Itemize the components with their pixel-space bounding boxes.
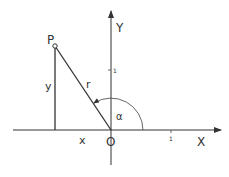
origin-label: O: [106, 135, 115, 149]
polar-coordinates-diagram: P Y X O r y x α 1 1: [0, 0, 229, 177]
y-axis-label: Y: [115, 21, 124, 35]
point-p-label: P: [47, 33, 54, 47]
radius-line: [55, 46, 111, 130]
x-component-label: x: [79, 134, 86, 147]
x-tick-label: 1: [169, 135, 173, 142]
radius-label: r: [86, 78, 91, 91]
x-axis-label: X: [197, 135, 205, 149]
y-component-label: y: [45, 80, 52, 93]
y-tick-label: 1: [113, 67, 117, 74]
angle-label: α: [116, 111, 123, 122]
